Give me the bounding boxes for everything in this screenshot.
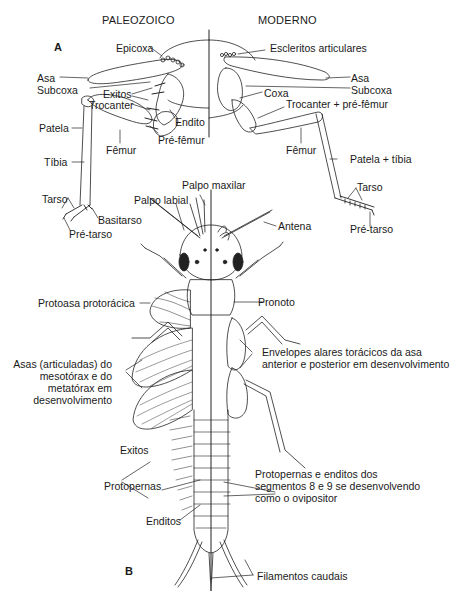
label-tibia: Tíbia	[44, 156, 67, 168]
left-cercus	[175, 540, 202, 587]
label-enditos: Enditos	[146, 515, 181, 527]
label-pronoto: Pronoto	[258, 296, 295, 308]
label-subcoxa-modern: Subcoxa	[351, 84, 392, 96]
label-protopernas-enditos-ovipositor: Protopernas e enditos dos segmentos 8 e …	[255, 468, 420, 504]
label-protoasa-protoracica: Protoasa protorácica	[38, 297, 135, 309]
label-subcoxa-paleozoic: Subcoxa	[37, 84, 78, 96]
header-modern: MODERNO	[258, 14, 317, 26]
right-hindleg	[244, 380, 305, 468]
label-tarso-paleozoic: Tarso	[42, 193, 68, 205]
label-pre-femur-paleozoic: Pré-fêmur	[158, 134, 205, 146]
label-palpo-maxilar: Palpo maxilar	[182, 179, 246, 191]
panel-label-a: A	[54, 41, 62, 53]
label-endito: Endito	[175, 116, 205, 128]
label-exitos-body: Exitos	[120, 444, 149, 456]
paleozoic-tibia	[80, 106, 92, 205]
modern-coxa	[217, 68, 242, 111]
protoasa	[150, 290, 190, 329]
right-cercus	[220, 540, 247, 587]
label-epicoxa: Epicoxa	[116, 42, 153, 54]
right-midleg	[246, 316, 300, 344]
right-eye	[233, 253, 243, 271]
label-patela-tibia: Patela + tíbia	[350, 153, 412, 165]
insect-appendage-evolution-figure: PALEOZOICO MODERNO A B Epicoxa Asa Subco…	[0, 0, 457, 591]
label-escleritos-articulares: Escleritos articulares	[270, 42, 367, 54]
hindwing-pad	[227, 368, 248, 418]
paleozoic-thorax-outline	[160, 40, 209, 58]
label-protopernas: Protopernas	[104, 480, 161, 492]
mesothoracic-wing	[132, 328, 192, 387]
label-patela: Patela	[39, 122, 69, 134]
panel-label-b: B	[125, 565, 133, 577]
label-pre-tarso-paleozoic: Pré-tarso	[69, 228, 112, 240]
label-palpo-labial: Palpo labial	[134, 194, 188, 206]
label-trocanter-pre-femur: Trocanter + pré-fêmur	[286, 98, 388, 110]
label-trocanter: Trocanter	[89, 99, 134, 111]
label-filamentos-caudais: Filamentos caudais	[257, 570, 347, 582]
modern-femur	[250, 112, 323, 134]
right-antenna	[222, 210, 272, 238]
label-envelopes-alares: Envelopes alares torácicos da asa anteri…	[262, 346, 449, 370]
forewing-pad	[227, 318, 246, 370]
left-eye	[179, 253, 189, 271]
modern-wing	[224, 57, 329, 80]
modern-tibia	[316, 114, 341, 198]
label-asas-articuladas: Asas (articuladas) do mesotórax e do met…	[8, 358, 112, 406]
label-pre-tarso-modern: Pré-tarso	[350, 223, 393, 235]
label-asa-paleozoic: Asa	[37, 72, 55, 84]
label-coxa: Coxa	[264, 87, 289, 99]
header-paleozoic: PALEOZOICO	[102, 14, 175, 26]
label-basitarso: Basitarso	[98, 214, 142, 226]
label-antena: Antena	[278, 220, 311, 232]
paleozoic-wing	[88, 59, 182, 83]
label-femur-modern: Fêmur	[286, 144, 316, 156]
label-tarso-modern: Tarso	[357, 181, 383, 193]
label-asa-modern: Asa	[351, 72, 369, 84]
label-femur-paleozoic: Fêmur	[106, 144, 136, 156]
metathoracic-wing	[133, 370, 192, 429]
